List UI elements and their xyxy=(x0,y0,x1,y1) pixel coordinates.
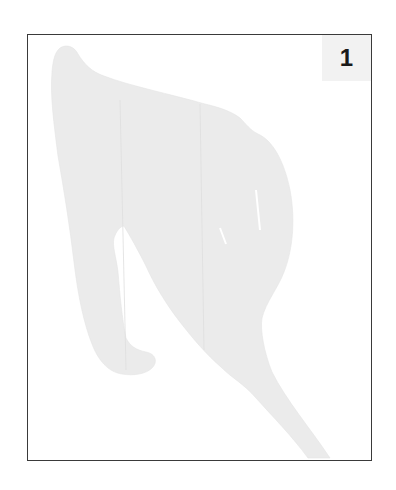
figure-number-text: 1 xyxy=(340,44,353,72)
figure-number-label: 1 xyxy=(322,35,371,81)
leaf-shape xyxy=(51,46,330,458)
